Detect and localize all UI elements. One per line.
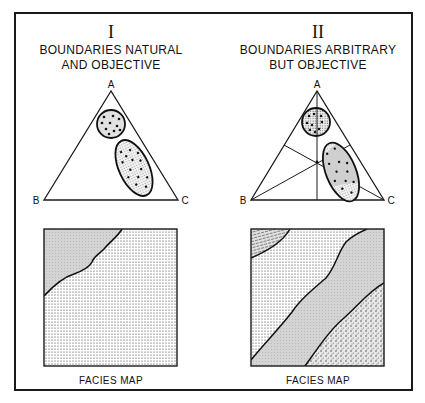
vertex-b-label-2: B (240, 195, 247, 206)
cluster-ellipse-2 (299, 126, 380, 212)
facies-map-2 (251, 229, 384, 366)
facies-map-1 (44, 229, 177, 366)
vertex-c-label-2: C (387, 195, 394, 206)
vertex-a-label-2: A (314, 79, 321, 90)
ternary-diagram-1: A B C (33, 79, 189, 206)
cluster-ellipse-1 (108, 134, 161, 201)
cluster-circle-1 (97, 110, 125, 138)
diagram-canvas: A B C (0, 0, 425, 403)
vertex-b-label-1: B (33, 195, 40, 206)
facies-map-2-caption: FACIES MAP (251, 375, 385, 386)
facies-map-1-caption: FACIES MAP (44, 375, 178, 386)
vertex-c-label-1: C (181, 195, 188, 206)
cluster-circle-2 (302, 108, 330, 136)
ternary-diagram-2: A B C (240, 79, 395, 212)
vertex-a-label-1: A (108, 79, 115, 90)
